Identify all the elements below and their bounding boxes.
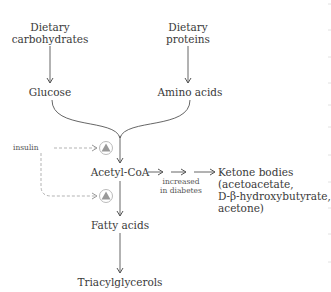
node-ketone-bodies: Ketone bodies (acetoacetate, D-β-hydroxy…: [218, 166, 331, 214]
ketone-bodies-line4: acetone): [218, 202, 331, 214]
ketone-bodies-line3-text: -β-hydroxybutyrate,: [226, 190, 330, 202]
ketone-bodies-line3: D-β-hydroxybutyrate,: [218, 190, 331, 202]
node-dietary-proteins: Dietary proteins: [166, 21, 210, 45]
lower-stimulation-icon: [100, 190, 113, 203]
dietary-proteins-line2: proteins: [166, 33, 210, 45]
ketone-bodies-line2: (acetoacetate,: [218, 178, 331, 190]
dietary-carbohydrates-line1: Dietary: [12, 21, 89, 33]
node-dietary-carbohydrates: Dietary carbohydrates: [12, 21, 89, 45]
node-amino-acids: Amino acids: [158, 86, 223, 98]
dashed-insulin-to-lower-regulation: [41, 153, 97, 196]
annotation-line2: in diabetes: [160, 186, 202, 195]
metabolic-pathway-diagram: Dietary carbohydrates Dietary proteins G…: [0, 0, 331, 292]
dietary-carbohydrates-line2: carbohydrates: [12, 33, 89, 45]
curve-glucose-to-merge: [52, 100, 120, 138]
upper-stimulation-icon: [100, 142, 113, 155]
annotation-line1: increased: [160, 177, 202, 186]
node-glucose: Glucose: [29, 86, 71, 98]
insulin-label: insulin: [13, 143, 39, 152]
node-acetyl-coa: Acetyl-CoA: [91, 166, 150, 178]
dietary-proteins-line1: Dietary: [166, 21, 210, 33]
node-fatty-acids: Fatty acids: [91, 219, 149, 231]
node-triacylglycerols: Triacylglycerols: [77, 276, 162, 288]
annotation-increased-in-diabetes: increased in diabetes: [160, 177, 202, 195]
ketone-bodies-line1: Ketone bodies: [218, 166, 331, 178]
curve-amino-acids-to-merge: [120, 100, 190, 138]
